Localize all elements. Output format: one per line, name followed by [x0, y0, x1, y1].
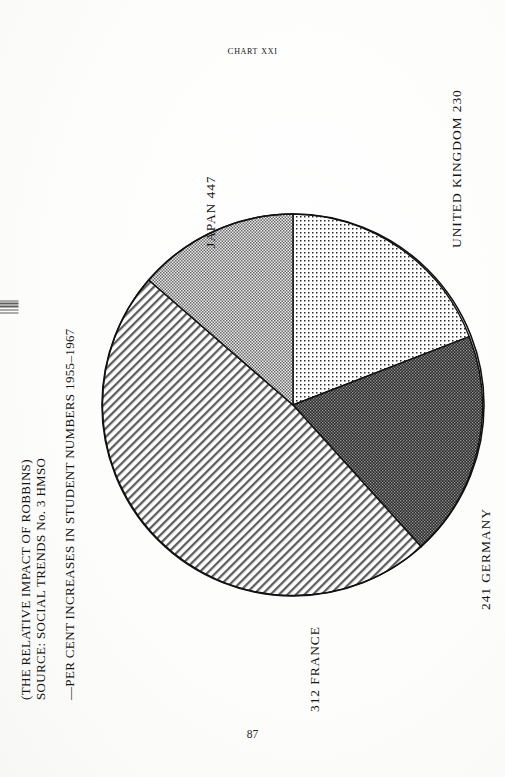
- caption-measure: —PER CENT INCREASES IN STUDENT NUMBERS 1…: [62, 328, 78, 700]
- page-edge-artifact: [0, 301, 19, 314]
- pie-chart: [100, 212, 486, 598]
- slice-label-germany: 241 GERMANY: [478, 508, 494, 610]
- caption-source: SOURCE: SOCIAL TRENDS No. 3 HMSO: [33, 458, 49, 700]
- slice-label-france: 312 FRANCE: [307, 626, 323, 712]
- page-title: Chart XXI: [0, 42, 505, 58]
- slice-label-japan: JAPAN 447: [203, 176, 219, 249]
- slice-label-united-kingdom: UNITED KINGDOM 230: [449, 89, 465, 248]
- page-folio: 87: [0, 728, 505, 740]
- caption-robbins: (THE RELATIVE IMPACT OF ROBBINS): [18, 459, 34, 700]
- page-canvas: Chart XXI (THE RELATIVE IMPACT OF ROBBIN…: [0, 0, 505, 777]
